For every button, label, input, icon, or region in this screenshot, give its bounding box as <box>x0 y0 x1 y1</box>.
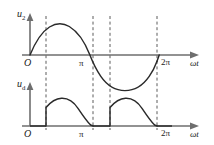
u2-xtick-2pi: 2π <box>161 57 170 67</box>
ud-axis-label: ud <box>17 78 25 91</box>
u2-origin-label: O <box>24 57 31 68</box>
u2-axis-label: u2 <box>17 8 25 21</box>
ud-xtick-pi: π <box>79 129 84 139</box>
ud-x-axis-label: ωt <box>190 129 199 139</box>
ud-origin-label: O <box>24 128 31 139</box>
u2-sine-curve <box>30 24 157 91</box>
panel-ud <box>22 82 199 130</box>
dashed-reference-lines <box>46 16 157 130</box>
ud-pulse-2 <box>110 98 157 126</box>
ud-y-axis-arrow <box>27 82 34 90</box>
u2-xtick-pi: π <box>79 58 84 68</box>
u2-x-axis-label: ωt <box>190 58 199 68</box>
ud-pulse-1 <box>46 98 93 126</box>
waveform-figure: u2 O π 2π ωt ud O π 2π ωt <box>0 0 214 145</box>
ud-xtick-2pi: 2π <box>161 128 170 138</box>
u2-y-axis-arrow <box>27 13 34 21</box>
waveform-svg <box>0 0 214 145</box>
panel-u2 <box>22 13 199 91</box>
